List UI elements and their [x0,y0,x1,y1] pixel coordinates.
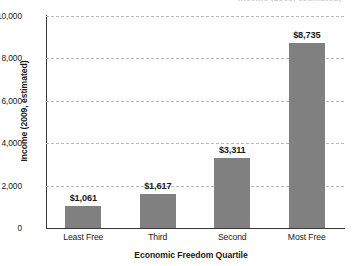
y-tick-label: 6,000 [0,96,22,106]
x-axis-line [46,228,345,229]
y-tick-label: 2,000 [0,181,22,191]
bar [289,43,325,228]
y-tick-label: 10,000 [0,11,22,21]
y-tick-label: 4,000 [0,138,22,148]
chart-title-cutoff: Income (2009, estimated) [238,0,362,2]
bar-value-label: $1,061 [43,193,123,203]
x-tick-label: Most Free [262,232,352,242]
bar-value-label: $3,311 [192,145,272,155]
bar-value-label: $8,735 [267,30,347,40]
y-tick-label: 0 [0,223,22,233]
x-axis-title: Economic Freedom Quartile [46,250,336,260]
gridline [46,16,344,17]
bar [140,194,176,228]
plot-area: 02,0004,0006,0008,00010,000 $1,061$1,617… [46,16,344,228]
y-tick-label: 8,000 [0,53,22,63]
bar-value-label: $1,617 [118,181,198,191]
bar-chart: Income (2009, estimated) Income (2009, e… [0,0,362,266]
bar [65,206,101,228]
bar [214,158,250,228]
